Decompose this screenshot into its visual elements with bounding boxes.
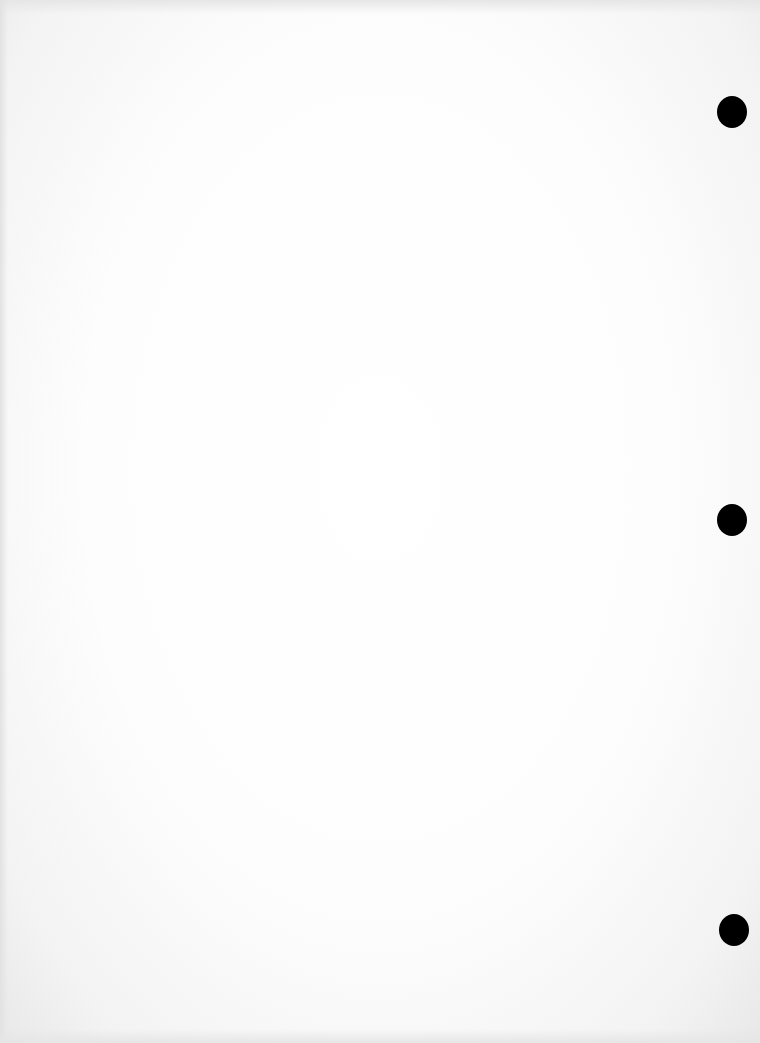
faint-show-through-middle: [20, 760, 740, 830]
page-top-edge-shadow: [0, 0, 760, 14]
blank-page: [0, 0, 760, 1043]
page-bottom-edge-shadow: [0, 1029, 760, 1043]
punch-hole-top-icon: [717, 96, 747, 128]
page-left-edge-shadow: [0, 0, 8, 1043]
punch-hole-bottom-icon: [719, 914, 749, 946]
punch-hole-middle-icon: [717, 504, 747, 536]
faint-show-through-top: [20, 40, 740, 250]
faint-show-through-bottom: [20, 920, 740, 1020]
